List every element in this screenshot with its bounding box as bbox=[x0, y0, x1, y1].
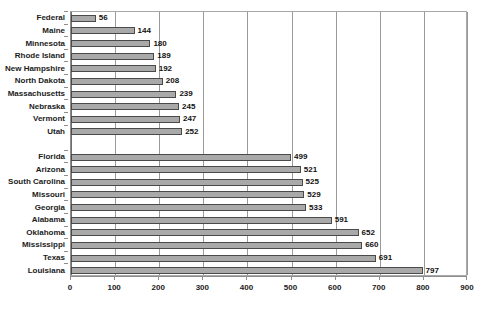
category-label: Georgia bbox=[35, 203, 65, 212]
tick-mark-300 bbox=[202, 276, 203, 280]
tick-mark-100 bbox=[114, 276, 115, 280]
category-label: Missouri bbox=[32, 190, 65, 199]
bar bbox=[71, 204, 306, 211]
category-tick bbox=[64, 226, 68, 227]
tick-mark-500 bbox=[291, 276, 292, 280]
bar-value-label: 180 bbox=[153, 40, 166, 48]
category-tick bbox=[64, 125, 68, 126]
tick-mark-900 bbox=[466, 276, 467, 280]
bar bbox=[71, 191, 304, 198]
bar bbox=[71, 154, 291, 161]
bar bbox=[71, 179, 303, 186]
bar-value-label: 252 bbox=[185, 128, 198, 136]
category-tick bbox=[64, 99, 68, 100]
bar-value-label: 660 bbox=[365, 241, 378, 249]
category-tick bbox=[64, 238, 68, 239]
value-axis-line bbox=[70, 276, 467, 277]
bar bbox=[71, 65, 156, 72]
bar bbox=[71, 15, 96, 22]
bar bbox=[71, 40, 150, 47]
category-tick bbox=[64, 87, 68, 88]
category-label: North Dakota bbox=[15, 76, 65, 85]
tick-label-500: 500 bbox=[284, 283, 297, 292]
value-axis: 0100200300400500600700800900 bbox=[70, 276, 467, 302]
category-label: Massachusetts bbox=[8, 89, 65, 98]
category-label: Rhode Island bbox=[15, 51, 65, 60]
plot-area: 5614418018919220823924524725249952152552… bbox=[70, 11, 467, 276]
category-label: Utah bbox=[47, 127, 65, 136]
bar-value-label: 521 bbox=[304, 166, 317, 174]
category-label: Alabama bbox=[32, 215, 65, 224]
tick-mark-800 bbox=[423, 276, 424, 280]
bar bbox=[71, 229, 359, 236]
category-tick bbox=[64, 24, 68, 25]
category-tick bbox=[64, 251, 68, 252]
bar-value-label: 247 bbox=[183, 115, 196, 123]
bar-value-label: 652 bbox=[362, 229, 375, 237]
bar bbox=[71, 267, 423, 274]
bar bbox=[71, 103, 179, 110]
bar-value-label: 189 bbox=[157, 52, 170, 60]
tick-label-200: 200 bbox=[152, 283, 165, 292]
category-tick bbox=[64, 213, 68, 214]
tick-mark-200 bbox=[158, 276, 159, 280]
bar-chart: Rate Per 100,000 People FederalMaineMinn… bbox=[0, 0, 485, 309]
bar-value-label: 192 bbox=[159, 65, 172, 73]
category-label: New Hampshire bbox=[5, 64, 65, 73]
bar-value-label: 56 bbox=[99, 14, 108, 22]
bar-value-label: 529 bbox=[307, 191, 320, 199]
category-label: Texas bbox=[43, 253, 65, 262]
bar bbox=[71, 128, 182, 135]
category-axis: FederalMaineMinnesotaRhode IslandNew Ham… bbox=[0, 11, 68, 276]
category-label: Nebraska bbox=[29, 102, 65, 111]
bar bbox=[71, 217, 332, 224]
bar bbox=[71, 53, 154, 60]
bar-value-label: 525 bbox=[306, 178, 319, 186]
gridline-700 bbox=[380, 12, 381, 275]
tick-mark-400 bbox=[246, 276, 247, 280]
tick-label-400: 400 bbox=[240, 283, 253, 292]
category-label: Minnesota bbox=[25, 39, 65, 48]
category-tick bbox=[64, 61, 68, 62]
bar-value-label: 797 bbox=[426, 267, 439, 275]
category-label: South Carolina bbox=[8, 177, 65, 186]
bar bbox=[71, 116, 180, 123]
category-label: Federal bbox=[37, 13, 65, 22]
gridline-800 bbox=[424, 12, 425, 275]
category-label: Louisiana bbox=[28, 266, 65, 275]
category-label: Vermont bbox=[33, 114, 65, 123]
category-tick bbox=[64, 175, 68, 176]
category-tick bbox=[64, 36, 68, 37]
category-tick bbox=[64, 74, 68, 75]
bar bbox=[71, 91, 176, 98]
tick-label-900: 900 bbox=[460, 283, 473, 292]
bar bbox=[71, 78, 163, 85]
category-tick bbox=[64, 263, 68, 264]
bar-value-label: 239 bbox=[179, 90, 192, 98]
tick-mark-600 bbox=[335, 276, 336, 280]
tick-mark-0 bbox=[70, 276, 71, 280]
bar bbox=[71, 27, 135, 34]
bar-value-label: 591 bbox=[335, 216, 348, 224]
category-tick bbox=[64, 49, 68, 50]
category-label: Oklahoma bbox=[26, 228, 65, 237]
category-label: Arizona bbox=[36, 165, 65, 174]
bar-value-label: 499 bbox=[294, 153, 307, 161]
bar-value-label: 144 bbox=[138, 27, 151, 35]
tick-label-300: 300 bbox=[196, 283, 209, 292]
bar-value-label: 691 bbox=[379, 254, 392, 262]
bar-value-label: 208 bbox=[166, 77, 179, 85]
category-tick bbox=[64, 200, 68, 201]
category-tick bbox=[64, 112, 68, 113]
category-tick bbox=[64, 162, 68, 163]
tick-label-700: 700 bbox=[372, 283, 385, 292]
tick-label-600: 600 bbox=[328, 283, 341, 292]
tick-label-100: 100 bbox=[107, 283, 120, 292]
category-label: Mississippi bbox=[22, 240, 65, 249]
bar bbox=[71, 255, 376, 262]
gridline-900 bbox=[467, 12, 468, 275]
category-label: Maine bbox=[42, 26, 65, 35]
bar bbox=[71, 166, 301, 173]
bar bbox=[71, 242, 362, 249]
tick-label-800: 800 bbox=[416, 283, 429, 292]
